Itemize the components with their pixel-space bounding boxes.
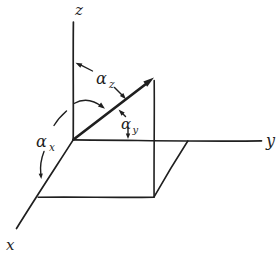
alpha-z-label: α [96, 69, 107, 88]
z-axis-label: z [74, 1, 83, 19]
y-axis-label: y [265, 131, 276, 150]
alpha-x-label: α [36, 132, 47, 151]
alpha-y-label: α [121, 115, 131, 133]
figure-canvas: z y x α z α y α x [0, 0, 280, 258]
x-axis-label: x [6, 236, 15, 254]
alpha-y-label-subscript: y [132, 124, 139, 135]
alpha-x-label-subscript: x [49, 141, 55, 153]
figure-background [0, 0, 280, 258]
alpha-z-label-subscript: z [108, 78, 115, 90]
direction-angles-figure: z y x α z α y α x [0, 0, 280, 258]
